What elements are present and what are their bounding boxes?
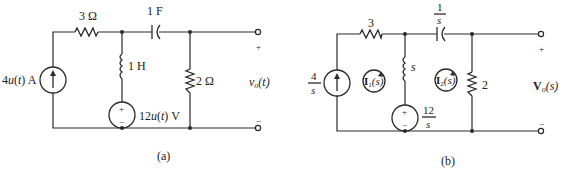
resistor-3: [360, 30, 382, 38]
node-a3: [120, 126, 124, 130]
circuit-a: 3 Ω 1 F 1 H 4u(t) A + − 12u(t) V 2 Ω: [2, 4, 270, 163]
output-voltage-a-label: vo(t): [249, 75, 270, 90]
current-source-b: [324, 70, 350, 96]
voltage-source-a-minus: −: [119, 117, 124, 127]
resistor-3ohm-label: 3 Ω: [79, 9, 97, 23]
current-source-a-label: 4u(t) A: [2, 73, 37, 87]
inductor-s: [403, 57, 405, 81]
circuit-b: 3 1 s s 4 s + −: [308, 1, 558, 168]
wire-left-a: [53, 32, 75, 67]
resistor-2ohm: [186, 69, 194, 93]
node-a1: [120, 30, 124, 34]
capacitor-1-over-s-label: 1 s: [434, 1, 446, 26]
resistor-2-label: 2: [482, 78, 488, 92]
mesh-current-i1: I1(s): [363, 70, 385, 92]
voltage-source-b: + −: [392, 105, 418, 131]
svg-text:4: 4: [311, 70, 317, 82]
wire-left-bottom-b: [337, 96, 539, 131]
output-plus-b: +: [539, 44, 544, 54]
output-minus-b: −: [539, 119, 544, 129]
voltage-source-b-plus: +: [402, 107, 407, 117]
resistor-2: [468, 72, 476, 96]
svg-text:1: 1: [437, 1, 443, 13]
voltage-source-a-plus: +: [119, 104, 124, 114]
output-plus-a: +: [256, 42, 261, 52]
output-terminal-bottom-b: [538, 128, 543, 133]
voltage-source-a-label: 12u(t) V: [139, 109, 180, 123]
wire-left-b: [337, 34, 360, 70]
circuit-figures: 3 Ω 1 F 1 H 4u(t) A + − 12u(t) V 2 Ω: [0, 0, 563, 176]
inductor-1h-label: 1 H: [128, 59, 146, 73]
output-voltage-b-label: Vo(s): [533, 79, 558, 94]
node-a4: [188, 126, 192, 130]
output-terminal-bottom-a: [255, 125, 260, 130]
output-terminal-top-b: [538, 31, 543, 36]
voltage-source-a: + −: [109, 102, 135, 128]
svg-text:s: s: [437, 14, 441, 26]
node-a2: [188, 30, 192, 34]
caption-b: (b): [441, 154, 455, 168]
svg-text:s: s: [426, 118, 430, 130]
current-source-a: [40, 67, 66, 93]
output-terminal-top-a: [255, 29, 260, 34]
voltage-source-b-label: 12 s: [422, 104, 436, 130]
svg-text:I1(s): I1(s): [364, 75, 384, 89]
voltage-source-b-minus: −: [402, 120, 407, 130]
svg-text:12: 12: [423, 104, 434, 116]
capacitor-1f-label: 1 F: [147, 4, 163, 18]
resistor-3ohm: [75, 28, 98, 36]
svg-text:s: s: [311, 84, 315, 96]
node-b2: [470, 32, 474, 36]
caption-a: (a): [157, 149, 170, 163]
inductor-1h: [120, 54, 122, 79]
node-b3: [403, 129, 407, 133]
capacitor-1f: [152, 25, 160, 39]
output-minus-a: −: [256, 116, 261, 126]
svg-text:I2(s): I2(s): [436, 74, 456, 88]
node-b1: [403, 32, 407, 36]
current-source-b-label: 4 s: [308, 70, 321, 96]
capacitor-1-over-s: [437, 27, 445, 41]
mesh-current-i2: I2(s): [435, 69, 457, 91]
inductor-s-label: s: [411, 60, 416, 74]
resistor-3-label: 3: [368, 16, 374, 30]
node-b4: [470, 129, 474, 133]
resistor-2ohm-label: 2 Ω: [196, 74, 214, 88]
